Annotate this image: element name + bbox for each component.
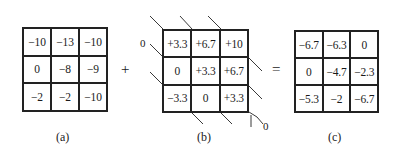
cell-c-0-2: 0 [350,31,378,58]
cell-b-0-2: +10 [220,30,248,57]
caption-b: (b) [197,130,211,145]
cell-b-2-1: 0 [191,85,219,112]
caption-c: (c) [328,130,341,145]
cell-b-2-2: +3.3 [220,85,248,112]
cell-c-2-2: −6.7 [350,85,378,112]
cell-c-2-0: −5.3 [295,85,323,112]
cell-b-1-1: +3.3 [191,57,219,84]
cell-b-0-0: +3.3 [163,30,191,57]
cell-c-0-0: −6.7 [295,31,323,58]
cell-c-2-1: −2 [323,85,351,112]
cell-c-1-1: −4.7 [323,58,351,85]
grid-c: −6.7 −6.3 0 0 −4.7 −2.3 −5.3 −2 −6.7 [294,30,379,113]
zero-label-bottom-right: 0 [263,120,269,132]
cell-c-1-0: 0 [295,58,323,85]
grid-b: +3.3 +6.7 +10 0 +3.3 +6.7 −3.3 0 +3.3 [162,29,249,113]
cell-c-1-2: −2.3 [350,58,378,85]
cell-b-0-1: +6.7 [191,30,219,57]
cell-b-2-0: −3.3 [163,85,191,112]
cell-b-1-2: +6.7 [220,57,248,84]
cell-b-1-0: 0 [163,57,191,84]
equals-operator: = [272,61,280,78]
zero-label-left: 0 [140,37,146,49]
cell-c-0-1: −6.3 [323,31,351,58]
